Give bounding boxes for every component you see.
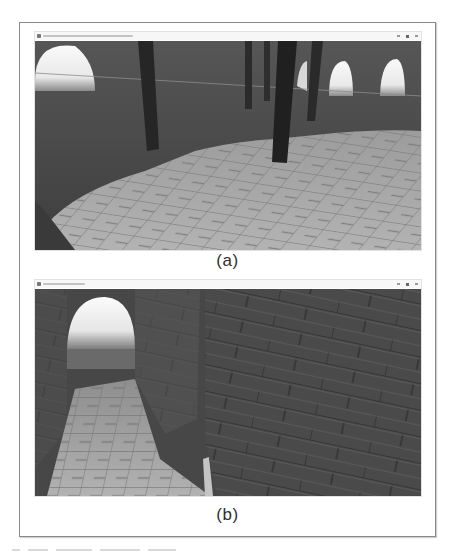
window-panel-b bbox=[34, 279, 422, 497]
close-icon[interactable] bbox=[415, 283, 418, 285]
window-panel-a bbox=[34, 31, 422, 251]
maximize-icon[interactable] bbox=[406, 283, 409, 286]
pillar bbox=[264, 41, 270, 101]
pillar bbox=[245, 41, 252, 109]
caption-b: (b) bbox=[20, 505, 435, 525]
close-icon[interactable] bbox=[415, 35, 418, 37]
game-viewport-b[interactable] bbox=[35, 289, 421, 496]
game-viewport-a[interactable] bbox=[35, 41, 421, 250]
figure-frame: (a) bbox=[19, 22, 436, 537]
scene-a bbox=[35, 41, 421, 250]
app-icon bbox=[37, 34, 41, 38]
window-title-b bbox=[43, 283, 85, 285]
titlebar-a bbox=[35, 32, 421, 40]
window-title-a bbox=[43, 35, 133, 37]
scene-b bbox=[35, 289, 421, 496]
cropped-text-line bbox=[12, 549, 176, 551]
window-controls-a bbox=[397, 33, 418, 39]
window-controls-b bbox=[397, 281, 418, 287]
app-icon bbox=[37, 282, 41, 286]
minimize-icon[interactable] bbox=[397, 35, 400, 37]
minimize-icon[interactable] bbox=[397, 283, 400, 285]
caption-a: (a) bbox=[20, 251, 435, 271]
maximize-icon[interactable] bbox=[406, 35, 409, 38]
titlebar-b bbox=[35, 280, 421, 288]
